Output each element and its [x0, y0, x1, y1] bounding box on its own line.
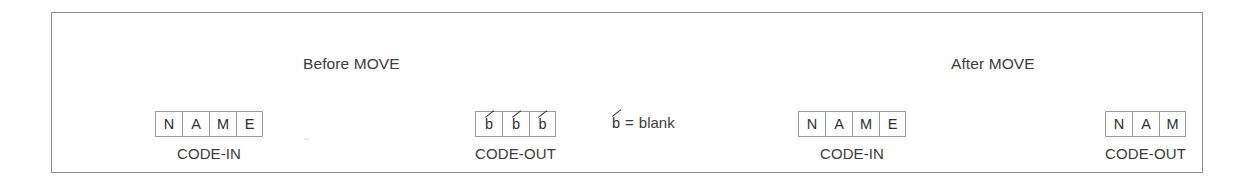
- field-label: CODE-OUT: [475, 145, 556, 162]
- character-cell: N: [155, 111, 182, 137]
- character-cell: A: [182, 111, 209, 137]
- blank-symbol: b: [485, 117, 493, 132]
- field-group-code-out-before: b b b CODE-OUT: [475, 111, 556, 162]
- cell-row: b b b: [475, 111, 556, 137]
- field-label: CODE-IN: [155, 145, 263, 162]
- character-cell: E: [236, 111, 263, 137]
- character-cell: A: [825, 111, 852, 137]
- legend-equals-sign: =: [625, 114, 634, 131]
- character-cell-blank: b: [475, 111, 502, 137]
- character-cell: M: [209, 111, 236, 137]
- character-cell: N: [1105, 111, 1132, 137]
- field-group-code-out-after: N A M CODE-OUT: [1105, 111, 1186, 162]
- scan-artifact: [304, 138, 309, 140]
- cell-row: N A M E: [798, 111, 906, 137]
- blank-symbol: b: [538, 117, 546, 132]
- blank-symbol: b: [612, 116, 620, 131]
- character-cell-blank: b: [502, 111, 529, 137]
- character-cell-blank: b: [529, 111, 556, 137]
- legend-meaning: blank: [639, 114, 675, 131]
- cell-row: N A M E: [155, 111, 263, 137]
- blank-legend: b = blank: [612, 114, 675, 131]
- blank-symbol: b: [512, 117, 520, 132]
- cell-row: N A M: [1105, 111, 1186, 137]
- field-group-code-in-before: N A M E CODE-IN: [155, 111, 263, 162]
- character-cell: A: [1132, 111, 1159, 137]
- figure-frame: Before MOVE After MOVE N A M E CODE-IN b…: [51, 12, 1203, 173]
- section-caption-before-move: Before MOVE: [303, 55, 400, 73]
- field-label: CODE-OUT: [1105, 145, 1186, 162]
- character-cell: M: [852, 111, 879, 137]
- character-cell: M: [1159, 111, 1186, 137]
- field-label: CODE-IN: [798, 145, 906, 162]
- character-cell: E: [879, 111, 906, 137]
- field-group-code-in-after: N A M E CODE-IN: [798, 111, 906, 162]
- section-caption-after-move: After MOVE: [951, 55, 1035, 73]
- character-cell: N: [798, 111, 825, 137]
